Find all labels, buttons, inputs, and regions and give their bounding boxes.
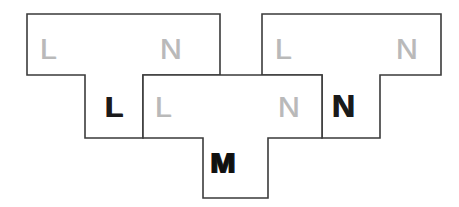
region-label-M-bottom: M [210,148,234,178]
region-label-L-mid-left: L [105,92,123,122]
region-label-L-top-right: L [275,34,292,64]
region-label-L-mid-center: L [155,92,172,122]
region-label-layer: LNLNLLNNM [0,0,459,207]
region-label-N-top-right: N [396,34,418,64]
region-label-N-top-left: N [160,34,182,64]
region-label-N-mid-right: N [332,90,355,122]
diagram-canvas: LNLNLLNNM [0,0,459,207]
region-label-L-top-left: L [40,34,57,64]
region-label-N-mid-center: N [278,92,300,122]
